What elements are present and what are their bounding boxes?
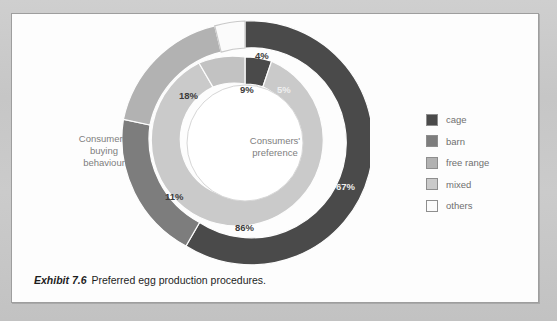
legend-item-cage[interactable]: cage: [426, 110, 530, 129]
legend-swatch-free-range: [426, 157, 438, 169]
value-label-outer-cage: 67%: [336, 181, 355, 192]
legend-swatch-mixed: [426, 178, 438, 190]
exhibit-number: Exhibit 7.6: [34, 274, 87, 286]
outer-ring-title: Consumers' buying behaviour: [56, 133, 152, 169]
legend-item-barn[interactable]: barn: [426, 132, 530, 151]
exhibit-caption: Exhibit 7.6Preferred egg production proc…: [34, 274, 266, 286]
legend-swatch-barn: [426, 135, 438, 147]
legend-swatch-cage: [426, 114, 438, 126]
outer-ring-title-line3: behaviour: [56, 157, 152, 169]
outer-ring-title-line1: Consumers': [56, 133, 152, 145]
legend-label-free-range: free range: [446, 157, 489, 168]
legend-label-others: others: [446, 200, 472, 211]
outer-ring-title-line2: buying: [56, 145, 152, 157]
value-label-inner-mixed: 9%: [240, 84, 254, 95]
legend-label-cage: cage: [446, 114, 467, 125]
legend-label-mixed: mixed: [446, 179, 471, 190]
legend-label-barn: barn: [446, 136, 465, 147]
legend-swatch-others: [426, 200, 438, 212]
legend-item-others[interactable]: others: [426, 196, 530, 215]
cut-off-header-text: [232, 0, 442, 11]
inner-ring-title-line1: Consumers': [227, 135, 323, 147]
inner-ring-title-line2: preference: [227, 147, 323, 159]
chart-area: 67% 11% 18% 4% 5% 86% 9% Consumers' pref…: [12, 14, 540, 264]
value-label-inner-free-range: 86%: [235, 222, 254, 233]
exhibit-panel: 67% 11% 18% 4% 5% 86% 9% Consumers' pref…: [11, 13, 539, 303]
value-label-outer-free-range: 18%: [179, 90, 198, 101]
legend-item-mixed[interactable]: mixed: [426, 175, 530, 194]
legend-item-free-range[interactable]: free range: [426, 153, 530, 172]
value-label-inner-cage: 5%: [277, 84, 291, 95]
exhibit-caption-text: Preferred egg production procedures.: [92, 274, 267, 286]
inner-ring-title: Consumers' preference: [227, 135, 323, 159]
value-label-outer-barn: 11%: [165, 191, 184, 202]
value-label-outer-others: 4%: [255, 50, 269, 61]
chart-legend: cage barn free range mixed others: [426, 110, 530, 218]
